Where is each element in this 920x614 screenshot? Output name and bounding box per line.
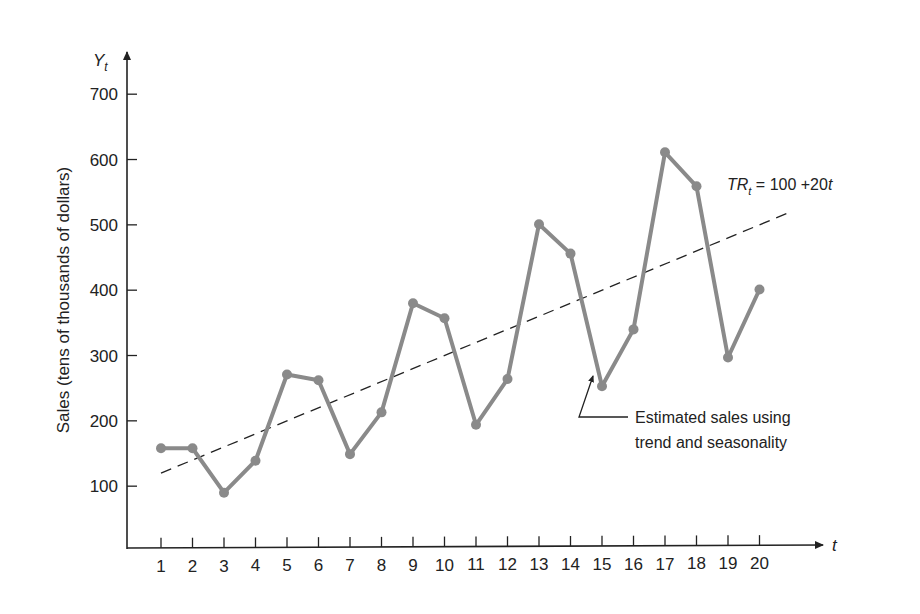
x-tick-label: 13 — [530, 555, 549, 574]
y-tick-label: 100 — [90, 477, 118, 496]
data-point — [471, 420, 481, 430]
trend-equation-label: TRt = 100 +20t — [727, 176, 833, 197]
data-point — [219, 488, 229, 498]
data-point — [755, 285, 765, 295]
y-tick-label: 200 — [90, 412, 118, 431]
x-tick-label: 6 — [314, 556, 323, 575]
data-point — [314, 375, 324, 385]
x-tick-label: 12 — [498, 555, 517, 574]
x-tick-label: 14 — [561, 555, 580, 574]
data-point — [597, 381, 607, 391]
x-tick-label: 8 — [377, 556, 386, 575]
x-tick-label: 20 — [750, 554, 769, 573]
y-axis-title: Sales (tens of thousands of dollars) — [54, 167, 73, 433]
x-tick-label: 2 — [188, 557, 197, 576]
data-point — [251, 456, 261, 466]
x-ticks: 1234567891011121314151617181920 — [156, 535, 769, 576]
data-point — [629, 324, 639, 334]
y-tick-label: 500 — [90, 216, 118, 235]
data-point — [692, 181, 702, 191]
y-ticks: 100200300400500600700 — [90, 85, 137, 496]
data-point — [188, 443, 198, 453]
data-point — [440, 313, 450, 323]
x-tick-label: 17 — [656, 555, 675, 574]
annotation-text-line1: Estimated sales using — [635, 409, 791, 426]
x-axis-label: t — [832, 536, 838, 555]
data-point — [723, 352, 733, 362]
data-point — [345, 449, 355, 459]
x-axis — [127, 545, 823, 548]
y-tick-label: 700 — [90, 85, 118, 104]
x-tick-label: 3 — [219, 557, 228, 576]
data-point — [660, 147, 670, 157]
x-tick-label: 1 — [156, 557, 165, 576]
y-tick-label: 600 — [90, 151, 118, 170]
y-tick-label: 400 — [90, 281, 118, 300]
y-tick-label: 300 — [90, 347, 118, 366]
x-tick-label: 9 — [408, 556, 417, 575]
x-tick-label: 16 — [624, 555, 643, 574]
data-point — [408, 298, 418, 308]
x-tick-label: 7 — [345, 556, 354, 575]
estimated-sales-annotation: Estimated sales using trend and seasonal… — [579, 376, 791, 451]
x-tick-label: 15 — [593, 555, 612, 574]
x-tick-label: 4 — [251, 556, 260, 575]
chart: 100200300400500600700 123456789101112131… — [0, 0, 920, 614]
x-tick-label: 18 — [687, 554, 706, 573]
x-tick-label: 5 — [282, 556, 291, 575]
x-tick-label: 11 — [467, 555, 485, 574]
data-point — [566, 249, 576, 259]
data-point — [156, 443, 166, 453]
data-point — [534, 219, 544, 229]
x-tick-label: 19 — [719, 554, 738, 573]
data-point — [377, 407, 387, 417]
data-point — [282, 369, 292, 379]
y-axis-symbol: Yt — [93, 51, 108, 74]
x-tick-label: 10 — [435, 556, 454, 575]
annotation-text-line2: trend and seasonality — [635, 434, 787, 451]
data-point — [503, 374, 513, 384]
